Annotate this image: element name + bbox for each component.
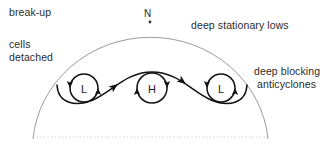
label-detached: detached <box>9 51 53 64</box>
label-cells: cells <box>9 38 31 51</box>
label-deep-blocking: deep blocking <box>254 65 320 78</box>
system-label-high-center: H <box>148 83 156 95</box>
pressure-system-high-center: H <box>134 73 170 103</box>
system-label-low-right: L <box>218 83 224 95</box>
label-north-pole: N <box>144 7 151 20</box>
label-anticyclones: anticyclones <box>257 78 316 91</box>
label-deep-stationary-lows: deep stationary lows <box>191 19 289 32</box>
synoptic-blocking-diagram: L H L break-up cells detached de <box>0 0 328 147</box>
pressure-system-low-right: L <box>204 74 238 102</box>
label-break-up: break-up <box>9 6 51 19</box>
north-pole-dot <box>149 21 152 24</box>
system-label-low-left: L <box>81 83 87 95</box>
